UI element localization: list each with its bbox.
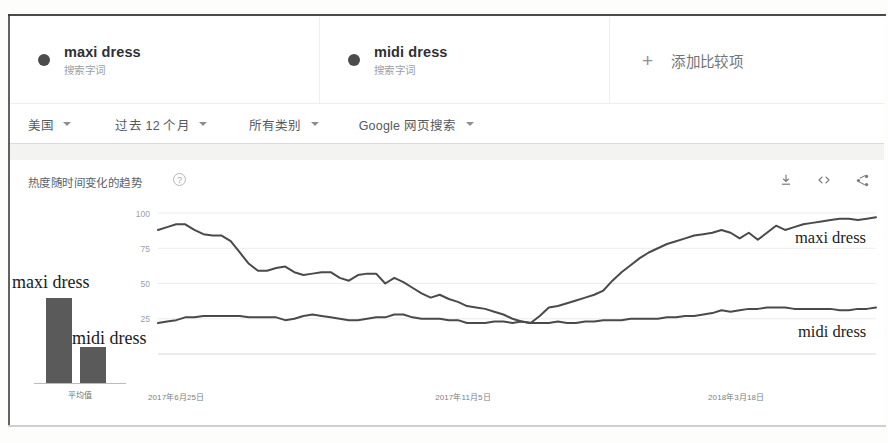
search-term-card-midi[interactable]: midi dress 搜索字词	[320, 17, 610, 103]
section-separator	[10, 143, 884, 161]
add-comparison-button[interactable]: + 添加比较项	[610, 17, 884, 103]
share-icon[interactable]	[854, 172, 870, 188]
average-bar-maxi	[46, 298, 72, 383]
series-dot-midi-icon	[348, 54, 360, 66]
annotation-label-maxi-left: maxi dress	[12, 272, 89, 293]
panel-title: 热度随时间变化的趋势	[28, 174, 142, 190]
filter-category[interactable]: 所有类别	[249, 115, 319, 134]
search-term-subtitle: 搜索字词	[64, 64, 141, 77]
chevron-down-icon	[63, 122, 71, 126]
search-term-title: maxi dress	[64, 43, 141, 61]
y-axis-tick-label: 50	[141, 279, 151, 289]
search-term-title: midi dress	[374, 43, 448, 61]
filter-search-type[interactable]: Google 网页搜索	[359, 115, 474, 134]
annotation-label-maxi-right: maxi dress	[795, 228, 866, 248]
panel-tools	[778, 172, 870, 188]
average-bar-midi	[80, 347, 106, 383]
annotation-label-midi-right: midi dress	[798, 322, 866, 342]
y-axis-tick-label: 100	[136, 209, 150, 219]
chevron-down-icon	[466, 122, 474, 126]
filter-region-label: 美国	[28, 115, 54, 134]
page-edge-top	[8, 14, 886, 16]
x-axis-label: 2018年3月18日	[708, 391, 764, 402]
x-axis-label: 2017年11月5日	[435, 391, 491, 402]
average-bar-axis	[34, 383, 126, 384]
plus-icon: +	[642, 51, 653, 70]
filter-time-range[interactable]: 过去 12 个月	[115, 115, 206, 134]
download-icon[interactable]	[778, 172, 794, 188]
search-term-subtitle: 搜索字词	[374, 64, 448, 77]
search-terms-row: maxi dress 搜索字词 midi dress 搜索字词 + 添加比较项	[10, 17, 884, 103]
panel-header: 热度随时间变化的趋势 ?	[10, 160, 884, 204]
y-axis-tick-label: 75	[141, 244, 151, 254]
chevron-down-icon	[199, 122, 207, 126]
embed-code-icon[interactable]	[816, 172, 832, 188]
search-term-card-maxi[interactable]: maxi dress 搜索字词	[10, 17, 320, 103]
help-icon[interactable]: ?	[173, 173, 186, 186]
filter-search-type-label: Google 网页搜索	[359, 115, 457, 134]
x-axis-labels: 2017年6月25日 2017年11月5日 2018年3月18日	[0, 391, 874, 405]
series-dot-maxi-icon	[38, 54, 50, 66]
filter-time-range-label: 过去 12 个月	[115, 115, 189, 134]
chevron-down-icon	[311, 122, 319, 126]
filter-category-label: 所有类别	[249, 115, 302, 134]
add-comparison-label: 添加比较项	[671, 50, 743, 71]
filter-bar: 美国 过去 12 个月 所有类别 Google 网页搜索	[10, 103, 884, 144]
filter-region[interactable]: 美国	[28, 115, 71, 134]
page-edge-bottom	[8, 425, 886, 427]
average-bar-chart: 平均值	[34, 296, 126, 392]
x-axis-label: 2017年6月25日	[148, 391, 204, 402]
trends-page: maxi dress 搜索字词 midi dress 搜索字词 + 添加比较项 …	[0, 0, 888, 443]
interest-over-time-panel: 热度随时间变化的趋势 ?	[10, 160, 884, 425]
y-axis-tick-label: 25	[141, 314, 151, 324]
